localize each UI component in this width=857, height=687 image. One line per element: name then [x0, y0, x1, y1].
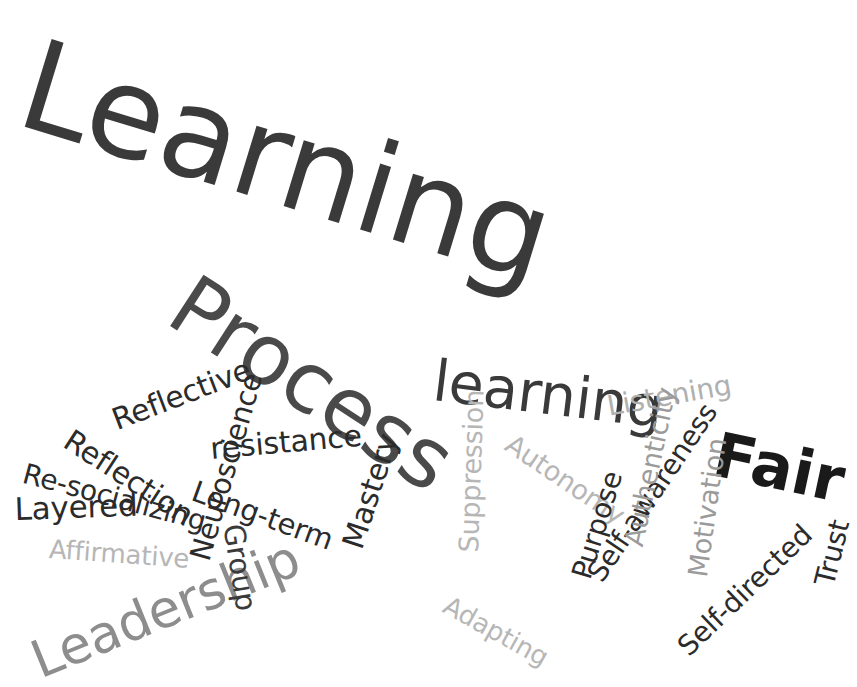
cloud-word-layered: Layered	[14, 490, 138, 525]
word-cloud-canvas: LearningProcesslearningFairLeadershipRef…	[0, 0, 857, 687]
cloud-word-learning: Learning	[7, 22, 565, 302]
cloud-word-affirmative: Affirmative	[48, 536, 190, 572]
cloud-word-adapting: Adapting	[439, 592, 552, 671]
cloud-word-fair: Fair	[708, 424, 850, 512]
cloud-word-trust: Trust	[811, 517, 854, 589]
cloud-word-suppression: Suppression	[455, 389, 488, 553]
